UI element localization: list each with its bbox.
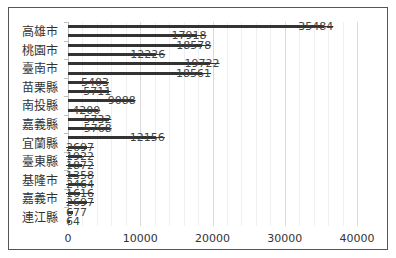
- y-tick: [64, 96, 68, 97]
- data-label: 9088: [108, 95, 136, 106]
- y-tick: [64, 152, 68, 153]
- gridline: [184, 22, 185, 226]
- category-label: 臺南市: [22, 62, 58, 76]
- gridline: [256, 22, 257, 226]
- category-label: 嘉義縣: [22, 118, 58, 132]
- y-tick: [64, 170, 68, 171]
- y-tick: [64, 22, 68, 23]
- category-label: 連江縣: [22, 211, 58, 225]
- gridline: [328, 22, 329, 226]
- category-label: 嘉義市: [22, 192, 58, 206]
- y-tick: [64, 78, 68, 79]
- bar: [68, 25, 324, 28]
- category-label: 高雄市: [22, 25, 58, 39]
- y-tick: [64, 133, 68, 134]
- x-tick-label: 30000: [267, 232, 302, 245]
- category-label: 宜蘭縣: [22, 137, 58, 151]
- data-label: 12156: [130, 132, 165, 143]
- y-tick: [64, 59, 68, 60]
- data-label: 12226: [130, 49, 165, 60]
- gridline: [343, 22, 344, 226]
- gridline: [198, 22, 199, 226]
- plot-area: 3548417918185781222619722185615403571190…: [68, 22, 358, 226]
- data-label: 18561: [176, 68, 211, 79]
- gridline: [357, 22, 358, 226]
- gridline: [213, 22, 214, 226]
- y-tick: [64, 189, 68, 190]
- data-label: 18578: [176, 40, 211, 51]
- gridline: [227, 22, 228, 226]
- y-tick: [64, 115, 68, 116]
- x-tick-label: 10000: [123, 232, 158, 245]
- gridline: [270, 22, 271, 226]
- x-tick-label: 20000: [195, 232, 230, 245]
- gridline: [314, 22, 315, 226]
- category-label: 桃園市: [22, 44, 58, 58]
- data-label: 64: [66, 216, 80, 227]
- category-label: 南投縣: [22, 99, 58, 113]
- data-label: 35484: [298, 21, 333, 32]
- gridline: [285, 22, 286, 226]
- y-tick: [64, 41, 68, 42]
- data-label: 5768: [84, 123, 112, 134]
- x-tick-label: 40000: [340, 232, 375, 245]
- gridline: [169, 22, 170, 226]
- gridline: [241, 22, 242, 226]
- y-tick: [64, 207, 68, 208]
- x-tick-label: 0: [65, 232, 72, 245]
- category-label: 苗栗縣: [22, 81, 58, 95]
- category-label: 基隆市: [22, 174, 58, 188]
- gridline: [299, 22, 300, 226]
- category-label: 臺東縣: [22, 155, 58, 169]
